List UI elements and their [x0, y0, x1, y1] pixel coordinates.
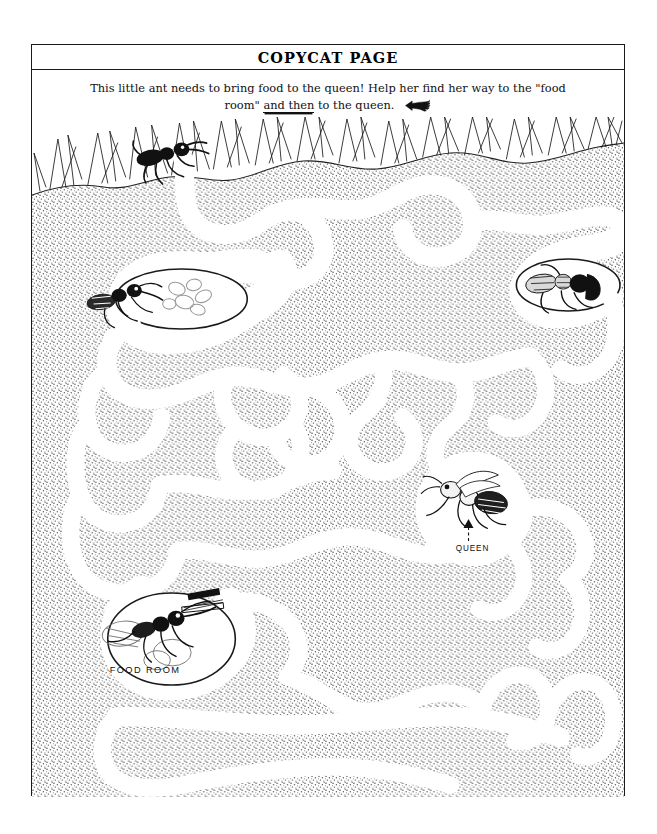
ant-maze-scene: QUEEN	[32, 117, 624, 797]
instructions-block: This little ant needs to bring food to t…	[32, 71, 624, 117]
instructions-line-1: This little ant needs to bring food to t…	[90, 81, 566, 95]
title-bar: COPYCAT PAGE	[32, 45, 624, 70]
queen-label: QUEEN	[456, 544, 490, 553]
worksheet-page: COPYCAT PAGE This little ant needs to br…	[31, 44, 625, 796]
pointing-hand-left-icon	[405, 99, 431, 117]
instructions-emphasis: and then	[263, 98, 314, 113]
instructions-line-2: room" and then to the queen.	[66, 97, 590, 117]
instructions-line-2-post: to the queen.	[314, 98, 394, 112]
page-title: COPYCAT PAGE	[258, 49, 399, 66]
instructions-line-2-pre: room"	[225, 98, 264, 112]
food-room-label: FOOD ROOM	[110, 665, 181, 675]
